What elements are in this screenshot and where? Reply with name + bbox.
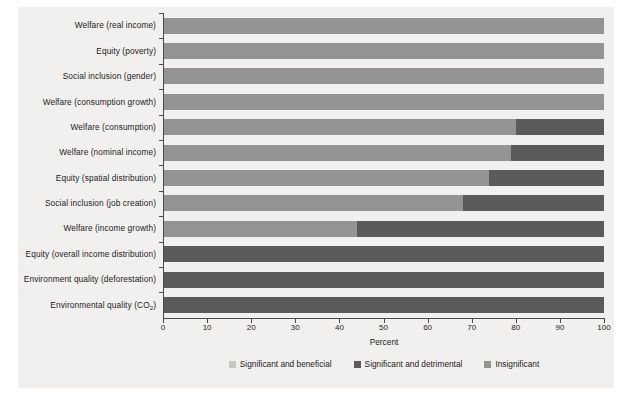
stacked-bar bbox=[163, 170, 604, 186]
category-label: Environmental quality (CO2) bbox=[18, 301, 163, 310]
bar-segment bbox=[163, 43, 604, 59]
legend-label: Significant and detrimental bbox=[365, 359, 463, 369]
x-tick-label: 100 bbox=[597, 323, 610, 332]
bar-segment bbox=[163, 195, 463, 211]
stacked-bar bbox=[163, 68, 604, 84]
chart-row: Welfare (income growth) bbox=[18, 216, 614, 241]
bar-area bbox=[163, 242, 604, 267]
bar-segment bbox=[489, 170, 604, 186]
bar-segment bbox=[163, 246, 604, 262]
subscript-two: 2 bbox=[150, 305, 153, 311]
chart-row: Welfare (consumption) bbox=[18, 115, 614, 140]
bar-area bbox=[163, 165, 604, 190]
chart-page: Welfare (real income)Equity (poverty)Soc… bbox=[0, 0, 629, 396]
chart-plot-area: Welfare (real income)Equity (poverty)Soc… bbox=[18, 7, 614, 388]
bar-segment bbox=[163, 272, 604, 288]
stacked-bar bbox=[163, 145, 604, 161]
bar-segment bbox=[511, 145, 604, 161]
category-label: Equity (spatial distribution) bbox=[18, 174, 163, 183]
category-label: Welfare (consumption) bbox=[18, 123, 163, 132]
legend-swatch-icon bbox=[484, 361, 491, 368]
bar-segment bbox=[163, 119, 516, 135]
chart-row: Welfare (nominal income) bbox=[18, 140, 614, 165]
bar-segment bbox=[163, 221, 357, 237]
bar-segment bbox=[163, 94, 604, 110]
stacked-bar bbox=[163, 43, 604, 59]
chart-row: Equity (poverty) bbox=[18, 38, 614, 63]
chart-row: Environment quality (deforestation) bbox=[18, 267, 614, 292]
bar-segment bbox=[516, 119, 604, 135]
legend-item[interactable]: Significant and detrimental bbox=[354, 359, 463, 369]
bar-area bbox=[163, 89, 604, 114]
legend-swatch-icon bbox=[354, 361, 361, 368]
bar-segment bbox=[163, 145, 511, 161]
bar-area bbox=[163, 292, 604, 317]
category-label: Welfare (real income) bbox=[18, 21, 163, 30]
stacked-bar bbox=[163, 221, 604, 237]
legend-item[interactable]: Insignificant bbox=[484, 359, 539, 369]
stacked-bar bbox=[163, 297, 604, 313]
stacked-bar bbox=[163, 119, 604, 135]
stacked-bar bbox=[163, 18, 604, 34]
category-label: Welfare (income growth) bbox=[18, 224, 163, 233]
category-label: Equity (overall income distribution) bbox=[18, 250, 163, 259]
stacked-bar bbox=[163, 94, 604, 110]
category-label: Welfare (consumption growth) bbox=[18, 98, 163, 107]
x-axis-title: Percent bbox=[163, 337, 605, 347]
chart-row: Environmental quality (CO2) bbox=[18, 292, 614, 317]
stacked-bar bbox=[163, 246, 604, 262]
bar-rows-container: Welfare (real income)Equity (poverty)Soc… bbox=[18, 13, 614, 318]
chart-row: Social inclusion (gender) bbox=[18, 64, 614, 89]
y-axis-line bbox=[163, 13, 164, 319]
category-label: Social inclusion (job creation) bbox=[18, 199, 163, 208]
x-tick-label: 80 bbox=[511, 323, 520, 332]
bar-segment bbox=[357, 221, 604, 237]
legend-item[interactable]: Significant and beneficial bbox=[229, 359, 332, 369]
bar-area bbox=[163, 64, 604, 89]
bar-segment bbox=[163, 297, 604, 313]
bar-area bbox=[163, 140, 604, 165]
legend-label: Insignificant bbox=[495, 359, 539, 369]
bar-segment bbox=[163, 68, 604, 84]
chart-row: Welfare (consumption growth) bbox=[18, 89, 614, 114]
legend-swatch-icon bbox=[229, 361, 236, 368]
x-tick-label: 10 bbox=[203, 323, 212, 332]
x-tick-label: 60 bbox=[423, 323, 432, 332]
chart-row: Equity (spatial distribution) bbox=[18, 165, 614, 190]
chart-row: Equity (overall income distribution) bbox=[18, 242, 614, 267]
stacked-bar bbox=[163, 272, 604, 288]
category-label: Social inclusion (gender) bbox=[18, 72, 163, 81]
bar-area bbox=[163, 191, 604, 216]
bar-segment bbox=[463, 195, 604, 211]
x-axis-tick-labels: 0102030405060708090100 bbox=[163, 323, 605, 335]
category-label: Equity (poverty) bbox=[18, 47, 163, 56]
stacked-bar bbox=[163, 195, 604, 211]
x-tick-label: 30 bbox=[291, 323, 300, 332]
bar-area bbox=[163, 216, 604, 241]
bar-area bbox=[163, 115, 604, 140]
bar-segment bbox=[163, 170, 489, 186]
category-label: Welfare (nominal income) bbox=[18, 148, 163, 157]
chart-row: Welfare (real income) bbox=[18, 13, 614, 38]
legend-label: Significant and beneficial bbox=[240, 359, 332, 369]
bar-area bbox=[163, 38, 604, 63]
x-tick-label: 50 bbox=[379, 323, 388, 332]
x-tick-label: 40 bbox=[335, 323, 344, 332]
category-label: Environment quality (deforestation) bbox=[18, 275, 163, 284]
x-tick-label: 70 bbox=[467, 323, 476, 332]
bar-area bbox=[163, 13, 604, 38]
bar-area bbox=[163, 267, 604, 292]
x-tick-label: 90 bbox=[555, 323, 564, 332]
x-tick-label: 20 bbox=[247, 323, 256, 332]
bar-segment bbox=[163, 18, 604, 34]
chart-legend: Significant and beneficialSignificant an… bbox=[163, 359, 605, 369]
chart-row: Social inclusion (job creation) bbox=[18, 191, 614, 216]
x-tick-label: 0 bbox=[161, 323, 165, 332]
